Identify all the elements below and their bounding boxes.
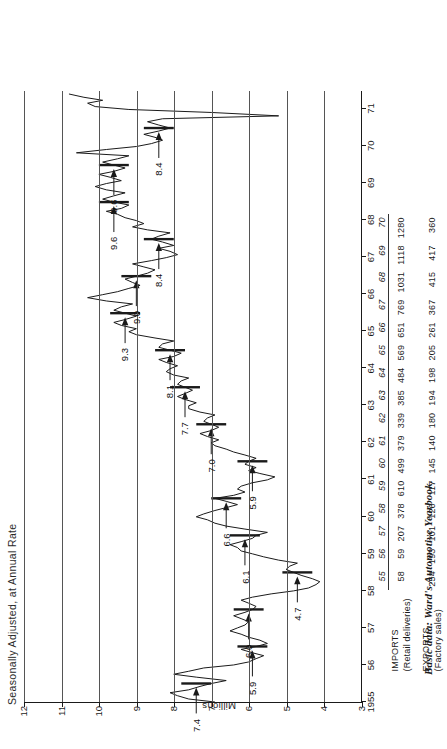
y-axis-tick-label: 11 bbox=[55, 706, 66, 726]
table-cell-imports: 385 bbox=[388, 386, 412, 409]
table-year-header: 69 bbox=[376, 241, 389, 268]
x-axis-tick-label: 62 bbox=[365, 437, 376, 448]
table-year-header: 61 bbox=[376, 431, 389, 454]
data-point-annotation: 5.9 bbox=[247, 496, 258, 509]
table-year-header: 60 bbox=[376, 454, 389, 477]
table-cell-imports: 378 bbox=[388, 499, 412, 522]
table-cell-exports: 145 bbox=[419, 454, 443, 477]
caption-prefix: Basic data: bbox=[422, 621, 434, 674]
sales-line-series bbox=[24, 91, 361, 702]
data-point-annotation: 6.6 bbox=[220, 533, 231, 546]
table-cell-exports: 198 bbox=[419, 363, 443, 386]
x-axis-tick-label: 69 bbox=[365, 177, 376, 188]
x-axis-tick-label: 61 bbox=[365, 474, 376, 485]
table-year-header: 66 bbox=[376, 318, 389, 341]
table-cell-exports: 367 bbox=[419, 296, 443, 319]
data-point-annotation: 7.7 bbox=[179, 422, 190, 435]
annotation-arrowhead bbox=[110, 169, 116, 177]
chart-gridline bbox=[24, 91, 25, 702]
y-axis-tick-label: 10 bbox=[93, 706, 104, 726]
table-year-header: 59 bbox=[376, 477, 389, 500]
annotation-arrowhead bbox=[294, 576, 300, 584]
table-year-header: 70 bbox=[376, 213, 389, 241]
table-cell-exports: 205 bbox=[419, 341, 443, 364]
chart-gridline bbox=[211, 91, 212, 702]
rotated-page-wrapper: Seasonally Adjusted, at Annual Rate Mill… bbox=[0, 0, 447, 749]
table-cell-imports: 1031 bbox=[388, 268, 412, 296]
table-year-header: 68 bbox=[376, 268, 389, 296]
x-axis-tick-label: 64 bbox=[365, 362, 376, 373]
table-cell-imports: 499 bbox=[388, 454, 412, 477]
data-point-annotation: 6.0 bbox=[243, 644, 254, 657]
x-axis-tick-label: 67 bbox=[365, 251, 376, 262]
x-axis-tick-label: 1955 bbox=[365, 691, 376, 712]
table-cell-exports: 180 bbox=[419, 409, 443, 432]
y-axis-tick-label: 9 bbox=[130, 706, 141, 726]
table-cell-exports: 194 bbox=[419, 386, 443, 409]
table-year-header: 64 bbox=[376, 363, 389, 386]
x-axis-tick-label: 63 bbox=[365, 399, 376, 410]
figure-page: Seasonally Adjusted, at Annual Rate Mill… bbox=[4, 5, 444, 745]
x-axis-tick-label: 66 bbox=[365, 288, 376, 299]
data-point-annotation: 4.7 bbox=[292, 607, 303, 620]
data-point-annotation: 9.3 bbox=[119, 347, 130, 360]
x-axis-tick-label: 56 bbox=[365, 659, 376, 670]
table-cell-exports: 360 bbox=[419, 213, 443, 241]
table-cell-imports: 484 bbox=[388, 363, 412, 386]
imports-subtitle: (Retail deliveries) bbox=[401, 598, 411, 671]
data-point-annotation: 7.0 bbox=[205, 459, 216, 472]
table-year-header: 62 bbox=[376, 409, 389, 432]
x-axis-tick-label: 68 bbox=[365, 214, 376, 225]
data-point-annotation: 6.1 bbox=[239, 570, 250, 583]
table-cell-imports: 610 bbox=[388, 477, 412, 500]
table-year-header: 65 bbox=[376, 341, 389, 364]
x-axis-tick-label: 65 bbox=[365, 325, 376, 336]
x-axis-tick-label: 57 bbox=[365, 622, 376, 633]
table-row-label-empty bbox=[376, 590, 389, 675]
table-cell-exports: 417 bbox=[419, 241, 443, 268]
table-cell-imports: 1118 bbox=[388, 241, 412, 268]
table-cell-imports: 651 bbox=[388, 318, 412, 341]
table-cell-exports: 140 bbox=[419, 431, 443, 454]
chart-plot-area: Millions 1211109876543195556575859606162… bbox=[24, 91, 362, 703]
source-caption: Basic data: Ward's Automotive Yearbook. bbox=[422, 480, 434, 675]
chart-gridline bbox=[61, 91, 62, 702]
table-cell-imports: 58 bbox=[388, 567, 412, 590]
table-cell-imports: 1280 bbox=[388, 213, 412, 241]
table-cell-imports: 339 bbox=[388, 409, 412, 432]
data-point-annotation: 9.6 bbox=[108, 199, 119, 212]
y-axis-tick-label: 4 bbox=[318, 706, 329, 726]
table-year-header: 67 bbox=[376, 296, 389, 319]
series-line bbox=[68, 93, 319, 701]
chart-gridline bbox=[249, 91, 250, 702]
data-point-annotation: 8.4 bbox=[153, 273, 164, 286]
data-point-annotation: 8.1 bbox=[164, 385, 175, 398]
table-year-header: 57 bbox=[376, 522, 389, 545]
table-cell-exports: 415 bbox=[419, 268, 443, 296]
x-axis-tick-label: 59 bbox=[365, 548, 376, 559]
table-row: 55565758596061626364656667686970 bbox=[376, 213, 389, 674]
chart-title: Seasonally Adjusted, at Annual Rate bbox=[6, 523, 18, 705]
y-axis-tick-label: 6 bbox=[243, 706, 254, 726]
chart-gridline bbox=[286, 91, 287, 702]
table-cell-exports: 261 bbox=[419, 318, 443, 341]
annotation-arrowhead bbox=[155, 243, 161, 251]
table-year-header: 63 bbox=[376, 386, 389, 409]
table-cell-imports: 569 bbox=[388, 341, 412, 364]
chart-gridline bbox=[136, 91, 137, 702]
table-cell-imports: 207 bbox=[388, 522, 412, 545]
annotation-arrowhead bbox=[245, 613, 251, 621]
y-axis-tick-label: 12 bbox=[18, 706, 29, 726]
data-point-annotation: 9.0 bbox=[130, 310, 141, 323]
table-year-header: 58 bbox=[376, 499, 389, 522]
table-cell-imports: 59 bbox=[388, 544, 412, 567]
x-axis-tick-label: 71 bbox=[365, 103, 376, 114]
table-year-header: 55 bbox=[376, 567, 389, 590]
x-axis-tick-label: 60 bbox=[365, 511, 376, 522]
table-cell-imports: 769 bbox=[388, 296, 412, 319]
x-axis-tick-label: 58 bbox=[365, 585, 376, 596]
annotation-arrowhead bbox=[155, 132, 161, 140]
y-axis-tick-label: 5 bbox=[280, 706, 291, 726]
x-axis-tick-label: 70 bbox=[365, 140, 376, 151]
chart-gridline bbox=[99, 91, 100, 702]
